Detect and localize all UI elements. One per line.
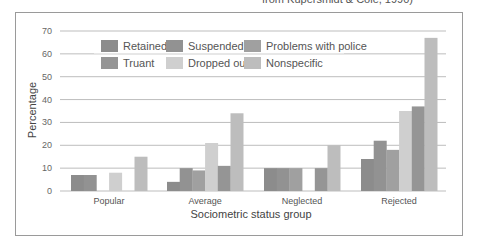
legend-label: Retained xyxy=(123,40,167,52)
y-tick-label: 50 xyxy=(42,72,52,82)
legend-label: Suspended xyxy=(188,40,244,52)
chart: 010203040506070 PopularAverageNeglectedR… xyxy=(0,0,479,252)
legend-label: Problems with police xyxy=(266,40,367,52)
bar-suspended-popular xyxy=(84,175,97,191)
bar-dropped-out-average xyxy=(205,143,218,191)
x-tick-label: Popular xyxy=(94,196,125,206)
bar-retained-average xyxy=(167,182,180,191)
bar-dropped-out-rejected xyxy=(399,111,412,191)
bar-truant-rejected xyxy=(412,106,425,191)
x-axis: PopularAverageNeglectedRejected xyxy=(94,196,417,206)
y-tick-label: 70 xyxy=(42,26,52,36)
y-tick-label: 0 xyxy=(47,186,52,196)
legend-label: Nonspecific xyxy=(266,57,323,69)
bar-suspended-rejected xyxy=(374,141,387,191)
y-axis-title: Percentage xyxy=(26,82,38,138)
bar-problems-with-police-rejected xyxy=(386,150,399,191)
bar-suspended-neglected xyxy=(277,168,290,191)
bar-retained-popular xyxy=(71,175,84,191)
legend-swatch xyxy=(101,57,118,69)
x-tick-label: Average xyxy=(188,196,221,206)
bar-nonspecific-rejected xyxy=(425,38,438,191)
legend-swatch xyxy=(244,57,261,69)
bar-nonspecific-average xyxy=(231,113,244,191)
bar-retained-rejected xyxy=(361,159,374,191)
legend: RetainedSuspendedProblems with policeTru… xyxy=(94,35,367,73)
bar-nonspecific-popular xyxy=(135,157,148,191)
legend-swatch xyxy=(166,40,183,52)
legend-label: Dropped out xyxy=(188,57,249,69)
bar-truant-neglected xyxy=(315,168,328,191)
bar-problems-with-police-average xyxy=(192,170,205,191)
y-axis: 010203040506070 xyxy=(42,26,52,196)
legend-swatch xyxy=(101,40,118,52)
y-tick-label: 10 xyxy=(42,163,52,173)
y-tick-label: 20 xyxy=(42,140,52,150)
x-axis-title: Sociometric status group xyxy=(190,208,311,220)
y-tick-label: 30 xyxy=(42,117,52,127)
bar-truant-average xyxy=(218,166,231,191)
bar-problems-with-police-neglected xyxy=(289,168,302,191)
legend-swatch xyxy=(166,57,183,69)
bar-nonspecific-neglected xyxy=(328,145,341,191)
bar-dropped-out-popular xyxy=(109,173,122,191)
legend-label: Truant xyxy=(123,57,154,69)
bar-suspended-average xyxy=(180,168,193,191)
legend-swatch xyxy=(244,40,261,52)
x-tick-label: Neglected xyxy=(282,196,323,206)
y-tick-label: 60 xyxy=(42,49,52,59)
x-tick-label: Rejected xyxy=(381,196,417,206)
y-tick-label: 40 xyxy=(42,95,52,105)
bar-retained-neglected xyxy=(264,168,277,191)
